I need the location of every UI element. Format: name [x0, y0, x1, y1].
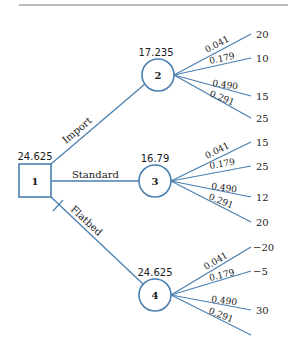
- payoff-label: 12: [256, 192, 269, 203]
- chance-node-value: 24.625: [138, 267, 173, 278]
- chance-node-4: 4 24.625 0.041 0.179 0.490 0.291 −20 −5 …: [138, 242, 275, 335]
- prune-mark: [53, 200, 63, 211]
- alt-label-standard: Standard: [72, 169, 119, 180]
- decision-node-value: 24.625: [18, 151, 53, 162]
- prob-label: 0.179: [209, 157, 236, 171]
- branch-import: [51, 84, 145, 164]
- chance-node-id: 3: [152, 176, 159, 187]
- chance-node-2: 2 17.235 0.041 0.179 0.490 0.291 20 10 1…: [139, 29, 269, 124]
- chance-node-3: 3 16.79 0.041 0.179 0.490 0.291 15 25 12…: [139, 137, 269, 228]
- decision-tree: 1 24.625 Import Standard Flatbed 2 17.23…: [0, 0, 288, 356]
- payoff-label: 10: [256, 53, 269, 64]
- outcome-branch: [171, 247, 251, 295]
- payoff-label: 25: [256, 161, 269, 172]
- payoff-label: 20: [256, 29, 269, 40]
- prob-label: 0.490: [211, 294, 238, 307]
- chance-node-value: 17.235: [139, 47, 174, 58]
- payoff-label: −5: [253, 266, 268, 277]
- prob-label: 0.179: [208, 267, 236, 283]
- payoff-label: 15: [256, 137, 269, 148]
- chance-node-id: 2: [155, 70, 162, 81]
- alt-label-import: Import: [60, 115, 94, 146]
- alt-label-flatbed: Flatbed: [69, 203, 105, 238]
- prob-label: 0.291: [207, 306, 235, 325]
- payoff-label: 15: [256, 91, 269, 102]
- chance-node-value: 16.79: [141, 153, 170, 164]
- chance-node-id: 4: [152, 290, 159, 301]
- payoff-label: 20: [256, 217, 269, 228]
- prob-label: 0.291: [207, 192, 235, 211]
- payoff-label: −20: [253, 242, 274, 253]
- decision-node-id: 1: [32, 176, 39, 187]
- payoff-label: 25: [256, 113, 269, 124]
- prob-label: 0.179: [208, 51, 236, 66]
- payoff-label: 30: [256, 305, 269, 316]
- branch-flatbed: [51, 197, 143, 284]
- prob-label: 0.291: [208, 89, 236, 108]
